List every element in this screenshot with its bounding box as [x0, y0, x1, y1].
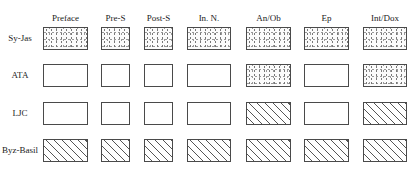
cell-ljc-an-ob-hatched	[246, 102, 291, 125]
cell-byz-basil-int-dox-hatched	[363, 139, 407, 162]
cell-ata-in-n-empty	[187, 64, 231, 87]
row-label-byz-basil: Byz-Basil	[0, 145, 40, 156]
cell-byz-basil-in-n-hatched	[187, 139, 231, 162]
cell-ata-post-s-empty	[144, 64, 173, 87]
cell-ljc-int-dox-hatched	[363, 102, 407, 125]
row-label-ljc: LJC	[0, 108, 40, 119]
cell-byz-basil-post-s-hatched	[144, 139, 173, 162]
cell-ata-preface-empty	[43, 64, 88, 87]
cell-sy-jas-ep-dotted	[304, 27, 349, 50]
cell-ata-int-dox-dotted	[363, 64, 407, 87]
cell-sy-jas-preface-dotted	[43, 27, 88, 50]
cell-sy-jas-in-n-dotted	[187, 27, 231, 50]
cell-ata-pre-s-empty	[101, 64, 130, 87]
column-header-preface: Preface	[43, 13, 88, 24]
cell-ljc-in-n-empty	[187, 102, 231, 125]
cell-sy-jas-pre-s-dotted	[101, 27, 130, 50]
column-header-in-n: In. N.	[187, 13, 231, 24]
cell-ata-an-ob-dotted	[246, 64, 291, 87]
column-header-an-ob: An/Ob	[246, 13, 291, 24]
cell-byz-basil-preface-hatched	[43, 139, 88, 162]
cell-byz-basil-ep-hatched	[304, 139, 349, 162]
cell-ljc-ep-empty	[304, 102, 349, 125]
cell-sy-jas-int-dox-dotted	[363, 27, 407, 50]
cell-ljc-pre-s-empty	[101, 102, 130, 125]
cell-ljc-preface-empty	[43, 102, 88, 125]
cell-ata-ep-empty	[304, 64, 349, 87]
row-label-ata: ATA	[0, 70, 40, 81]
cell-byz-basil-pre-s-hatched	[101, 139, 130, 162]
cell-byz-basil-an-ob-hatched	[246, 139, 291, 162]
column-header-pre-s: Pre-S	[101, 13, 130, 24]
cell-ljc-post-s-empty	[144, 102, 173, 125]
row-label-sy-jas: Sy-Jas	[0, 33, 40, 44]
column-header-ep: Ep	[304, 13, 349, 24]
column-header-post-s: Post-S	[144, 13, 173, 24]
cell-sy-jas-post-s-dotted	[144, 27, 173, 50]
cell-sy-jas-an-ob-dotted	[246, 27, 291, 50]
column-header-int-dox: Int/Dox	[363, 13, 407, 24]
